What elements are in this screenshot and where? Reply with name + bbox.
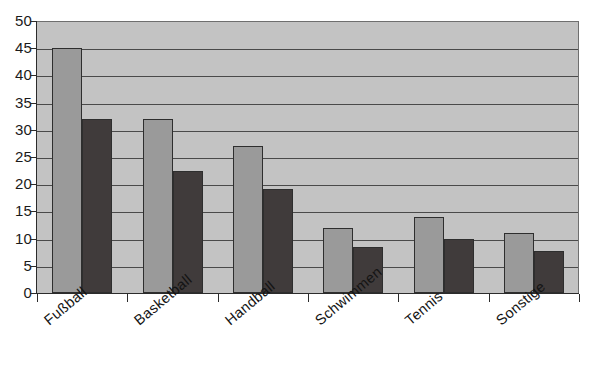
gridline [37,49,578,50]
plot-area [37,21,579,293]
x-tick-label: Tennis [402,288,446,328]
bar [414,217,444,293]
y-tick-label: 40 [2,67,32,82]
x-axis-labels: FußballBasketballHandballSchwimmenTennis… [0,294,599,387]
gridline [37,104,578,105]
bar-chart: 05101520253035404550 FußballBasketballHa… [0,0,599,387]
y-tick-label: 5 [2,258,32,273]
gridline [37,185,578,186]
gridline [37,267,578,268]
y-tick-label: 10 [2,231,32,246]
bar [82,119,112,293]
y-tick-label: 30 [2,122,32,137]
y-tick-label: 45 [2,40,32,55]
gridline [37,131,578,132]
y-tick-label: 25 [2,149,32,164]
bar [323,228,353,293]
bar [143,119,173,293]
bar [233,146,263,293]
y-tick-label: 35 [2,95,32,110]
gridline [37,158,578,159]
gridline [37,212,578,213]
y-tick-label: 15 [2,203,32,218]
bar [444,239,474,293]
y-tick-label: 50 [2,13,32,28]
y-tick-label: 20 [2,176,32,191]
bar [52,48,82,293]
gridline [37,240,578,241]
gridline [37,76,578,77]
